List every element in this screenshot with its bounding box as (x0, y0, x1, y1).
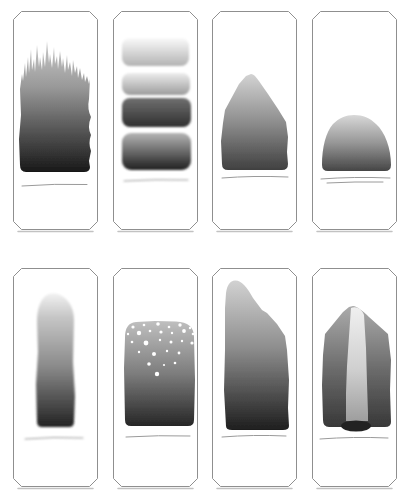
speckle-dot (152, 352, 156, 356)
speckle-dot (190, 341, 193, 344)
stain-shape (124, 321, 195, 426)
slide-panel-4-low-mound (312, 11, 397, 233)
speckle-dot (174, 362, 177, 365)
speckle-dot (138, 351, 140, 353)
panel-svg (113, 268, 198, 490)
speckle-dot (178, 323, 181, 326)
speckle-dot (163, 364, 165, 366)
band-shape (122, 73, 190, 95)
band-shape (122, 98, 191, 127)
diagram-canvas (0, 0, 406, 496)
speckle-dot (159, 330, 162, 333)
slide-panel-7-sloped-peak-column (212, 268, 297, 490)
speckle-dot (166, 350, 168, 352)
band-shape (122, 38, 189, 66)
pattern-group (124, 321, 195, 437)
panel-svg (312, 268, 397, 490)
speckle-dot (144, 341, 149, 346)
slide-panel-8-split-column-with-light-channel (312, 268, 397, 490)
speckle-dot (137, 331, 141, 335)
slide-panel-3-peaked-mound (212, 11, 297, 233)
panel-svg (113, 11, 198, 233)
slide-panel-2-stacked-bands (113, 11, 198, 233)
speckle-dot (156, 322, 160, 326)
pattern-group (122, 38, 191, 181)
speckle-dot (168, 326, 171, 329)
slide-panel-5-narrow-column (13, 268, 98, 490)
speckle-dot (170, 341, 173, 344)
speckle-dot (131, 325, 134, 328)
panel-svg (212, 11, 297, 233)
speckle-dot (182, 329, 186, 333)
stain-shape (36, 294, 75, 427)
pool-ellipse (341, 421, 371, 432)
speckle-dot (171, 332, 173, 334)
panel-svg (13, 11, 98, 233)
band-shape (122, 133, 191, 170)
speckle-dot (147, 362, 151, 366)
speckle-dot (159, 339, 161, 341)
speckle-dot (131, 341, 134, 344)
speckle-dot (192, 333, 195, 336)
panel-svg (312, 11, 397, 233)
speckle-dot (143, 324, 146, 327)
slide-panel-6-speckled-column (113, 268, 198, 490)
speckle-dot (189, 327, 191, 329)
slide-panel-1-jagged-top-column (13, 11, 98, 233)
speckle-dot (178, 352, 181, 355)
panel-svg (13, 268, 98, 490)
panel-svg (212, 268, 297, 490)
speckle-dot (149, 330, 152, 333)
speckle-dot (127, 333, 129, 335)
speckle-dot (181, 340, 183, 342)
speckle-dot (155, 372, 159, 376)
